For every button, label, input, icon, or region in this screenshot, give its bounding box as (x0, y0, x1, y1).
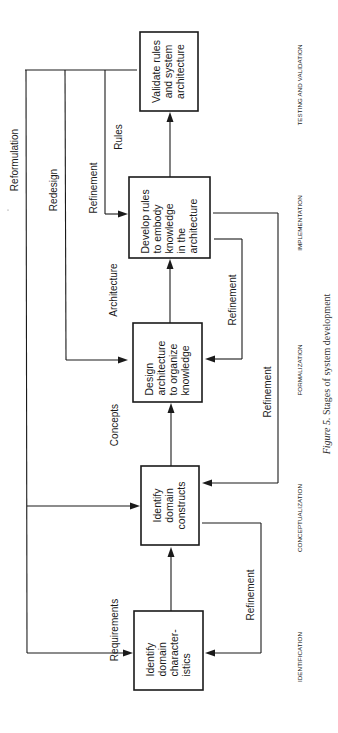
svg-text:knowledge: knowledge (163, 203, 175, 253)
arrowhead-up-icon (168, 403, 175, 413)
label-concepts: Concepts (109, 404, 120, 446)
identify-constructs-label: Identify domain constructs (151, 482, 187, 530)
svg-text:in the: in the (175, 228, 187, 254)
svg-text:Design: Design (143, 363, 155, 396)
feedback-reformulation (26, 70, 140, 657)
scan-speck (7, 209, 8, 210)
arrow-architecture (167, 259, 174, 323)
arrowhead-left-icon (202, 480, 212, 487)
figure-caption-label: Figure 5. (321, 418, 332, 456)
label-requirements: Requirements (109, 599, 120, 661)
figure-caption: Figure 5. Stages of system development (321, 293, 332, 455)
svg-text:Validate rules: Validate rules (150, 40, 162, 103)
box-validate-rules-text: Validate rules (0, 0, 63, 2)
stage-testing-and-validation: TESTING AND VALIDATION (296, 44, 303, 125)
label-refinement-conceptualization: Refinement (262, 366, 273, 417)
svg-text:Identify: Identify (144, 642, 156, 677)
validate-rules-label: Validate rules and system architecture (150, 40, 186, 103)
arrowhead-right-icon (118, 211, 128, 218)
stages-of-system-development-diagram: Validate rules Validate rules and system… (0, 0, 338, 733)
svg-text:architecture: architecture (174, 44, 186, 99)
label-architecture: Architecture (108, 263, 119, 317)
arrowhead-left-icon (205, 356, 215, 363)
stage-formalization: FORMALIZATION (296, 344, 303, 395)
svg-text:architecture: architecture (187, 198, 199, 253)
svg-text:character-: character- (168, 629, 180, 677)
svg-text:Develop rules: Develop rules (139, 189, 151, 253)
feedback-refinement-conceptualization (202, 213, 278, 487)
stage-identification: IDENTIFICATION (296, 632, 303, 682)
svg-text:to organize: to organize (167, 343, 179, 395)
svg-text:Identify: Identify (151, 488, 163, 523)
arrowhead-left-icon (205, 650, 215, 657)
arrow-rules (167, 112, 174, 177)
svg-text:domain: domain (156, 642, 168, 677)
svg-text:knowledge: knowledge (179, 345, 191, 395)
label-reformulation: Reformulation (9, 129, 20, 191)
label-refinement-identification: Refinement (245, 569, 256, 620)
stage-conceptualization: CONCEPTUALIZATION (296, 484, 303, 552)
figure-caption-text: Stages of system development (321, 293, 332, 415)
stage-implementation: IMPLEMENTATION (296, 195, 303, 250)
svg-text:architecture: architecture (155, 340, 167, 395)
svg-text:to embody: to embody (151, 204, 163, 254)
label-refinement-top: Refinement (88, 162, 99, 213)
arrowhead-right-icon (123, 650, 133, 657)
label-redesign: Redesign (48, 169, 59, 211)
arrowhead-up-icon (167, 259, 174, 269)
arrow-requirements (168, 547, 175, 611)
svg-text:constructs: constructs (175, 482, 187, 530)
arrowhead-up-icon (167, 112, 174, 122)
arrowhead-right-icon (130, 503, 140, 510)
svg-text:and system: and system (162, 44, 174, 98)
svg-text:istics: istics (180, 653, 192, 676)
svg-text:domain: domain (163, 488, 175, 523)
arrowhead-right-icon (118, 357, 128, 364)
arrowhead-up-icon (168, 547, 175, 557)
label-rules: Rules (113, 124, 124, 150)
arrow-concepts (168, 403, 175, 466)
label-refinement-formalization: Refinement (227, 274, 238, 325)
